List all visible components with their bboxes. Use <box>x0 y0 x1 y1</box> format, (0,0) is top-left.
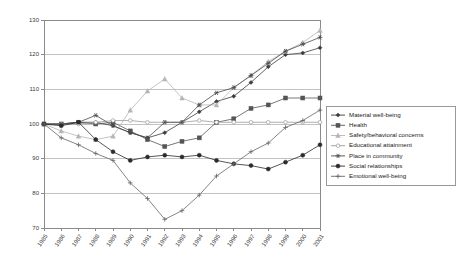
x-tick-label-1990: 1990 <box>122 233 135 248</box>
x-tick-label-1993: 1993 <box>174 233 187 248</box>
data-point <box>284 96 288 100</box>
chart-legend: Material well-beingHealthSafety/behavior… <box>326 106 455 185</box>
data-point <box>266 120 270 124</box>
series-line <box>44 122 320 169</box>
x-tick-label-1998: 1998 <box>260 233 273 248</box>
x-tick-label-1995: 1995 <box>209 233 222 248</box>
data-point <box>249 164 253 168</box>
series-material-well-being <box>42 46 322 140</box>
data-point <box>76 143 81 148</box>
data-point <box>318 96 322 100</box>
y-tick-label-100: 100 <box>29 121 40 127</box>
data-point <box>249 106 253 110</box>
data-point <box>146 120 150 124</box>
y-tick-label-90: 90 <box>32 155 39 161</box>
data-point <box>266 167 270 171</box>
series-social-relationships <box>42 120 322 171</box>
data-point <box>94 138 98 142</box>
data-point <box>197 136 201 140</box>
legend-marker <box>336 164 340 168</box>
data-point <box>59 129 64 133</box>
series-group <box>42 28 323 222</box>
legend-marker <box>336 123 340 127</box>
y-tick-label-80: 80 <box>32 190 39 196</box>
data-point <box>232 120 236 124</box>
x-tick-label-1989: 1989 <box>105 233 118 248</box>
data-point <box>111 119 115 123</box>
data-point <box>318 28 323 32</box>
data-point <box>318 120 322 124</box>
data-point <box>128 158 132 162</box>
legend-item-label: Safety/behavioral concerns <box>349 131 424 138</box>
data-point <box>162 77 167 81</box>
series-emotional-well-being <box>42 108 323 222</box>
x-tick-label-1988: 1988 <box>88 233 101 248</box>
x-tick-label-1996: 1996 <box>226 233 239 248</box>
data-point <box>93 151 98 156</box>
data-point <box>163 145 167 149</box>
data-point <box>215 158 219 162</box>
data-point <box>146 155 150 159</box>
data-point <box>318 46 322 50</box>
y-tick-label-120: 120 <box>29 51 40 57</box>
data-point <box>318 143 322 147</box>
y-tick-labels: 708090100110120130 <box>29 17 40 231</box>
data-point <box>180 155 184 159</box>
chart-container: 708090100110120130 198519861987198819891… <box>0 0 459 279</box>
legend-item-label: Emotional well-being <box>349 172 407 179</box>
data-point <box>284 120 288 124</box>
y-tick-label-130: 130 <box>29 17 40 23</box>
x-axis <box>44 20 320 231</box>
data-point <box>284 160 288 164</box>
data-point <box>128 119 132 123</box>
legend-item-label: Material well-being <box>349 111 401 118</box>
x-tick-label-1991: 1991 <box>140 233 153 248</box>
x-tick-label-2001: 2001 <box>312 233 325 248</box>
x-tick-label-2000: 2000 <box>295 233 308 248</box>
data-point <box>111 150 115 154</box>
x-tick-label-1999: 1999 <box>278 233 291 248</box>
y-tick-label-70: 70 <box>32 225 39 231</box>
data-point <box>197 119 201 123</box>
data-point <box>163 131 167 135</box>
data-point <box>301 153 305 157</box>
data-point <box>301 96 305 100</box>
data-point <box>266 103 270 107</box>
x-tick-label-1994: 1994 <box>191 233 204 248</box>
data-point <box>94 120 98 124</box>
data-point <box>77 120 81 124</box>
y-tick-label-110: 110 <box>29 86 39 92</box>
data-point <box>249 120 253 124</box>
data-point <box>215 120 219 124</box>
legend-item-label: Educational attainment <box>349 141 412 148</box>
legend-marker <box>336 144 340 148</box>
legend-item-label: Social relationships <box>349 162 402 169</box>
legend-item-label: Health <box>349 121 367 128</box>
legend-item-label: Place in community <box>349 152 404 159</box>
x-tick-label-1997: 1997 <box>243 233 256 248</box>
data-point <box>163 153 167 157</box>
x-tick-label-1987: 1987 <box>71 233 84 248</box>
line-chart: 708090100110120130 198519861987198819891… <box>0 0 459 279</box>
x-tick-label-1992: 1992 <box>157 233 170 248</box>
x-tick-label-1985: 1985 <box>36 233 49 248</box>
data-point <box>197 153 201 157</box>
data-point <box>59 124 63 128</box>
data-point <box>197 110 201 114</box>
x-tick-label-1986: 1986 <box>53 233 66 248</box>
x-tick-labels: 1985198619871988198919901991199219931994… <box>36 233 325 248</box>
data-point <box>180 139 184 143</box>
data-point <box>318 108 323 113</box>
